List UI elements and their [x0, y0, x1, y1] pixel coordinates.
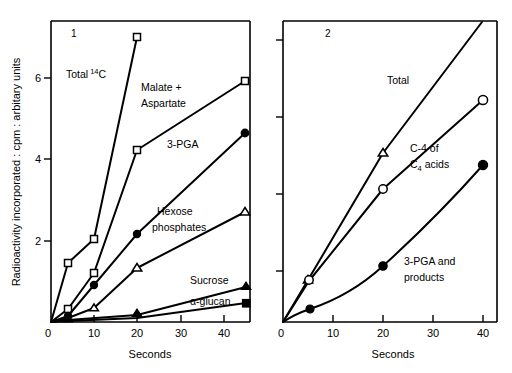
- panel2-marker-3pga-20s: [379, 262, 387, 270]
- panel1-y-ticklabels: 6 4 2 0: [35, 72, 51, 339]
- panel2-series-c4-acids: [283, 95, 488, 322]
- panel-2: 0 10 20 30 40 Seconds 2 Total: [276, 21, 497, 360]
- panel2-label-c4-line1: C-4 of: [410, 142, 439, 154]
- panel1-marker-hexose-45s: [240, 208, 250, 216]
- panel1-xticklabel-10: 10: [88, 327, 100, 339]
- panel2-label-3pga-products: 3-PGA and products: [404, 255, 456, 283]
- panel1-label-hexose-phosphates: Hexose phosphates: [152, 205, 206, 233]
- y-axis-title: Radioactivity incorporated : cpm : arbit…: [10, 57, 22, 286]
- panel2-marker-c4-5s: [305, 276, 313, 284]
- panel1-number: 1: [71, 28, 77, 39]
- panel2-x-ticks: [333, 315, 483, 322]
- panel1-marker-glucan-45s: [243, 300, 251, 308]
- panel1-yticklabel-0: 0: [45, 327, 51, 339]
- panel1-label-hexose-line1: Hexose: [157, 205, 193, 217]
- panel2-x-axis-title: Seconds: [372, 348, 415, 360]
- panel2-label-total: Total: [387, 74, 409, 86]
- panel1-marker-malate-45s: [242, 78, 249, 85]
- panel1-marker-total-c14-10s: [91, 236, 98, 243]
- panel2-marker-c4-40s: [478, 95, 487, 104]
- panel2-label-c4-line2: C4 acids: [410, 158, 449, 173]
- panel2-xticklabel-10: 10: [327, 327, 339, 339]
- panel1-y-ticks: [44, 78, 51, 241]
- panel1-x-axis-title: Seconds: [129, 348, 172, 360]
- panel2-xticklabel-40: 40: [477, 327, 489, 339]
- panel1-label-total-c14-text: Total14C: [66, 67, 107, 80]
- panel1-xticklabel-20: 20: [131, 327, 143, 339]
- panel-1: 6 4 2 0 10 20 30 40 Seconds 1: [35, 21, 251, 360]
- panel2-number: 2: [325, 28, 331, 39]
- panel1-label-sucrose: Sucrose: [190, 274, 229, 286]
- panel1-yticklabel-6: 6: [35, 72, 41, 84]
- panel2-xticklabel-0: 0: [278, 327, 284, 339]
- panel1-label-malate-line2: Aspartate: [141, 97, 186, 109]
- panel1-label-alpha-glucan: α-glucan: [190, 295, 231, 307]
- panel2-label-c4-acids: C-4 of C4 acids: [410, 142, 449, 173]
- panel2-label-3pga-line1: 3-PGA and: [404, 255, 456, 267]
- panel1-label-3pga: 3-PGA: [167, 138, 199, 150]
- panel1-marker-malate-4s: [65, 306, 72, 313]
- panel2-marker-c4-20s: [379, 185, 387, 193]
- panel1-marker-malate-20s: [134, 147, 141, 154]
- panel2-x-ticklabels: 0 10 20 30 40: [278, 327, 489, 339]
- figure-root: 6 4 2 0 10 20 30 40 Seconds 1: [0, 0, 512, 373]
- panel1-marker-3pga-10s: [90, 281, 97, 288]
- chart-canvas: 6 4 2 0 10 20 30 40 Seconds 1: [0, 0, 512, 373]
- panel2-xticklabel-30: 30: [427, 327, 439, 339]
- panel1-yticklabel-2: 2: [35, 235, 41, 247]
- panel2-label-3pga-line2: products: [404, 271, 444, 283]
- panel2-line-c4-acids: [283, 100, 483, 322]
- panel2-xticklabel-20: 20: [377, 327, 389, 339]
- panel1-label-malate-aspartate: Malate + Aspartate: [141, 81, 186, 109]
- panel1-x-ticklabels: 10 20 30 40: [88, 327, 230, 339]
- panel1-xticklabel-30: 30: [175, 327, 187, 339]
- panel1-marker-total-c14-4s: [65, 260, 72, 267]
- panel1-xticklabel-40: 40: [218, 327, 230, 339]
- panel1-marker-3pga-20s: [133, 230, 140, 237]
- panel1-marker-sucrose-20s: [132, 309, 142, 317]
- panel1-label-total-c14: Total14C: [66, 67, 107, 80]
- panel2-marker-3pga-40s: [478, 160, 487, 169]
- panel2-y-ticks: [276, 40, 283, 271]
- panel2-marker-3pga-5s: [306, 305, 314, 313]
- panel1-label-malate-line1: Malate +: [141, 81, 182, 93]
- panel1-yticklabel-4: 4: [35, 153, 41, 165]
- panel1-marker-total-c14-20s: [134, 34, 141, 41]
- panel1-marker-malate-10s: [91, 270, 98, 277]
- panel1-label-hexose-line2: phosphates: [152, 221, 206, 233]
- panel1-marker-3pga-45s: [241, 129, 249, 137]
